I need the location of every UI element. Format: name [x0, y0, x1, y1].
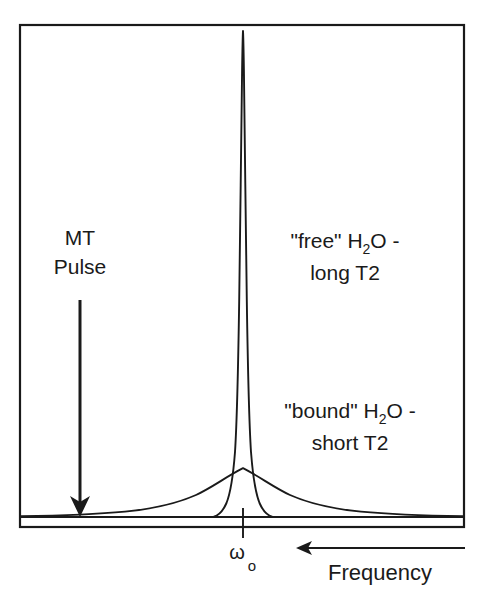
- mt-spectrum-figure: MT Pulse "free" H2O - long T2 "bound" H2…: [0, 0, 483, 596]
- free-water-label-text-b: O -: [370, 229, 399, 252]
- omega-subscript: o: [248, 557, 256, 574]
- mt-pulse-label-line1: MT: [65, 226, 95, 249]
- frequency-axis-arrow: [296, 541, 465, 555]
- bound-water-label-line2: short T2: [312, 431, 389, 454]
- omega-zero-label: ω o: [229, 541, 256, 574]
- free-water-label-line2: long T2: [310, 261, 380, 284]
- bound-water-label-text-b: O -: [386, 399, 415, 422]
- free-water-label-subscript: 2: [363, 241, 371, 257]
- bound-water-label-subscript: 2: [379, 411, 387, 427]
- omega-symbol: ω: [229, 541, 245, 563]
- frequency-axis-label: Frequency: [328, 560, 432, 585]
- bound-water-label-text-a: "bound" H: [284, 399, 378, 422]
- mt-pulse-label-line2: Pulse: [54, 255, 107, 278]
- free-water-label-text-a: "free" H: [290, 229, 362, 252]
